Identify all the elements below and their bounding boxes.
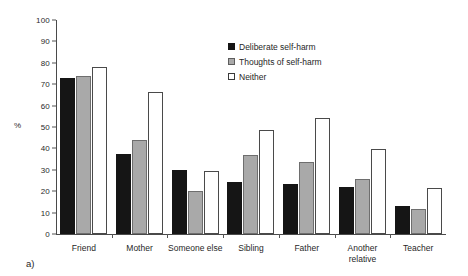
y-axis-tick-label: 30 (26, 165, 50, 174)
x-axis-category-label: Another relative (335, 243, 391, 265)
bar (259, 130, 274, 234)
bar (188, 191, 203, 234)
bar-group (112, 20, 168, 234)
white-square-icon (228, 73, 235, 80)
bar (132, 140, 147, 234)
x-axis-line (56, 234, 446, 235)
x-axis-category-label: Father (279, 243, 335, 254)
legend-label: Thoughts of self-harm (239, 57, 322, 67)
y-axis-tick-label: 20 (26, 187, 50, 196)
legend-label: Deliberate self-harm (239, 42, 316, 52)
bar (92, 67, 107, 234)
x-axis-tick-mark (335, 234, 336, 238)
bar (76, 76, 91, 234)
bar-chart-figure: % 0102030405060708090100 FriendMotherSom… (0, 0, 468, 276)
y-axis-tick-label: 100 (26, 16, 50, 25)
x-axis-tick-mark (112, 234, 113, 238)
y-axis-tick-label: 50 (26, 123, 50, 132)
bar-group (390, 20, 446, 234)
legend-item-thoughts: Thoughts of self-harm (228, 55, 322, 68)
legend-item-deliberate: Deliberate self-harm (228, 40, 322, 53)
bar (227, 182, 242, 234)
x-axis-tick-mark (167, 234, 168, 238)
bar (116, 154, 131, 234)
gray-square-icon (228, 58, 235, 65)
bar (148, 92, 163, 234)
bar-group (335, 20, 391, 234)
bar (355, 179, 370, 234)
bar (371, 149, 386, 234)
x-axis-category-label: Mother (112, 243, 168, 254)
bar (60, 78, 75, 234)
bar-group (167, 20, 223, 234)
y-axis-tick-label: 10 (26, 208, 50, 217)
x-axis-tick-mark (223, 234, 224, 238)
y-axis-tick-label: 70 (26, 80, 50, 89)
bar (243, 155, 258, 234)
bar (411, 209, 426, 234)
x-axis-tick-mark (279, 234, 280, 238)
bar (339, 187, 354, 234)
y-axis-tick-label: 80 (26, 58, 50, 67)
y-axis-tick-label: 0 (26, 230, 50, 239)
figure-caption: a) (26, 258, 34, 269)
bar (283, 184, 298, 234)
x-axis-tick-mark (390, 234, 391, 238)
y-axis-tick-label: 60 (26, 101, 50, 110)
bar-group (56, 20, 112, 234)
bar (204, 171, 219, 234)
bar (395, 206, 410, 234)
legend-label: Neither (239, 72, 266, 82)
legend-item-neither: Neither (228, 70, 322, 83)
bar (427, 188, 442, 234)
bar (299, 162, 314, 234)
x-axis-category-label: Friend (56, 243, 112, 254)
black-square-icon (228, 43, 235, 50)
x-axis-category-label: Someone else (167, 243, 223, 254)
y-axis-unit-label: % (14, 121, 21, 130)
y-axis-tick-label: 90 (26, 37, 50, 46)
x-axis-category-label: Teacher (390, 243, 446, 254)
y-axis-tick-label: 40 (26, 144, 50, 153)
bar (315, 118, 330, 234)
bar (172, 170, 187, 234)
x-axis-category-label: Sibling (223, 243, 279, 254)
chart-legend: Deliberate self-harm Thoughts of self-ha… (228, 40, 322, 85)
